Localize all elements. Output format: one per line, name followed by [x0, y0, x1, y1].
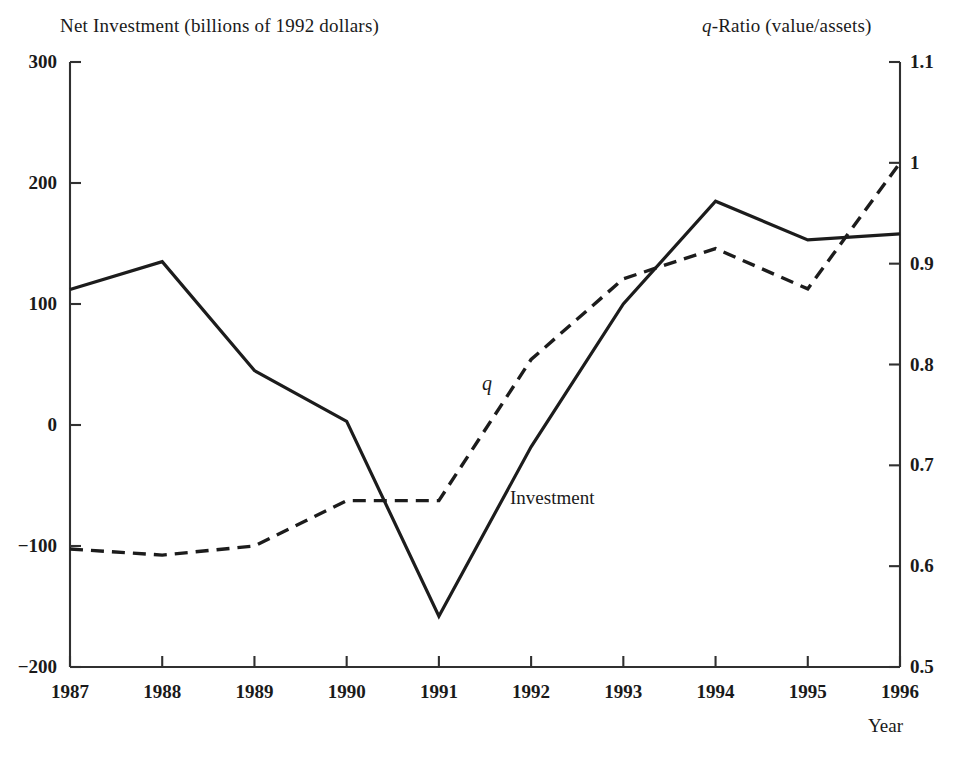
axis-lines: [70, 62, 900, 667]
x-tick-label: 1991: [420, 681, 458, 703]
x-tick-label: 1989: [235, 681, 273, 703]
right-tick-label: 0.6: [910, 555, 934, 577]
chart-figure: Net Investment (billions of 1992 dollars…: [0, 0, 958, 761]
series-label-q: q: [482, 372, 492, 395]
x-tick-label: 1995: [789, 681, 827, 703]
right-tick-label: 1.1: [910, 51, 934, 73]
left-tick-label: −100: [0, 535, 57, 557]
x-tick-label: 1994: [697, 681, 735, 703]
left-tick-label: 200: [0, 172, 57, 194]
x-tick-label: 1993: [604, 681, 642, 703]
left-tick-label: 300: [0, 51, 57, 73]
tick-marks: [70, 62, 900, 667]
x-tick-label: 1987: [51, 681, 89, 703]
right-tick-label: 0.8: [910, 354, 934, 376]
right-tick-label: 0.9: [910, 253, 934, 275]
plot-area: [0, 0, 958, 761]
x-tick-label: 1990: [328, 681, 366, 703]
left-tick-label: 100: [0, 293, 57, 315]
x-tick-label: 1996: [881, 681, 919, 703]
x-tick-label: 1988: [143, 681, 181, 703]
right-tick-label: 0.7: [910, 454, 934, 476]
right-tick-label: 0.5: [910, 656, 934, 678]
series-line-investment: [70, 201, 900, 616]
series-line-q: [70, 163, 900, 555]
left-tick-label: 0: [0, 414, 57, 436]
right-tick-label: 1: [910, 152, 920, 174]
series-label-investment: Investment: [510, 487, 594, 509]
x-axis-title: Year: [868, 715, 903, 737]
x-tick-label: 1992: [512, 681, 550, 703]
left-tick-label: −200: [0, 656, 57, 678]
